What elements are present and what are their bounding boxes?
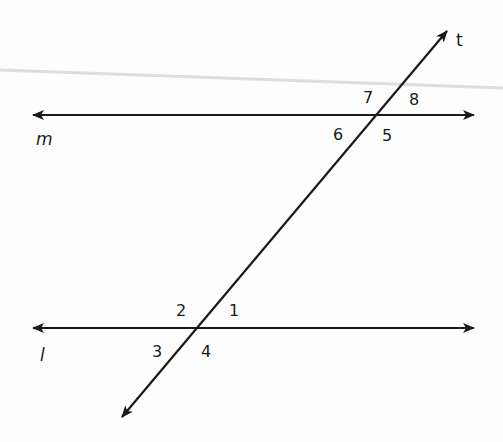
angle-4: 4 xyxy=(201,344,211,360)
angle-3: 3 xyxy=(152,344,162,360)
transversal-t xyxy=(122,31,447,417)
label-m: m xyxy=(36,131,53,148)
angle-7: 7 xyxy=(363,90,373,106)
diagram-canvas: t m l 7 8 6 5 2 1 3 4 xyxy=(0,0,503,442)
scan-fold-mark xyxy=(0,70,503,88)
angle-2: 2 xyxy=(176,303,186,319)
label-l: l xyxy=(40,347,45,364)
angle-8: 8 xyxy=(409,92,419,108)
parallel-lines-figure xyxy=(0,0,503,442)
angle-5: 5 xyxy=(382,128,392,144)
angle-1: 1 xyxy=(229,303,239,319)
angle-6: 6 xyxy=(333,127,343,143)
label-t: t xyxy=(456,32,463,49)
